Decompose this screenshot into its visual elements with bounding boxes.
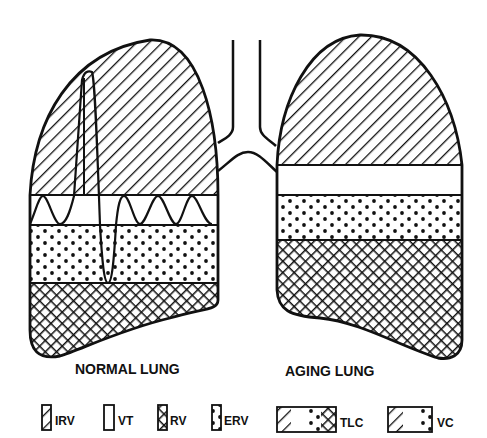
trachea: [218, 40, 277, 172]
svg-text:VT: VT: [118, 414, 134, 428]
normal-erv-band: [25, 225, 225, 283]
erv-swatch-icon: [212, 405, 221, 430]
vc-swatch-icon: [388, 407, 432, 432]
normal-rv-band: [25, 283, 225, 363]
svg-text:TLC: TLC: [340, 416, 364, 430]
legend-item-rv: RV: [158, 405, 186, 430]
normal-lung-label: NORMAL LUNG: [75, 361, 180, 377]
aging-irv-band: [270, 25, 470, 165]
aging-lung: AGING LUNG: [270, 25, 470, 379]
svg-text:VC: VC: [437, 416, 454, 430]
normal-irv-band: [25, 30, 225, 195]
tlc-swatch-icon: [277, 407, 336, 432]
legend-item-irv: IRV: [42, 405, 75, 430]
normal-lung: NORMAL LUNG: [25, 30, 225, 377]
legend: IRV VT RV ERV TLC: [42, 405, 454, 432]
rv-swatch-icon: [158, 405, 167, 430]
legend-item-vc: VC: [388, 407, 454, 432]
aging-vt-band: [270, 165, 470, 195]
svg-text:RV: RV: [170, 414, 186, 428]
svg-text:ERV: ERV: [224, 414, 248, 428]
aging-lung-label: AGING LUNG: [285, 363, 375, 379]
legend-item-tlc: TLC: [277, 407, 364, 432]
aging-rv-band: [270, 240, 470, 365]
vt-swatch-icon: [104, 405, 114, 430]
irv-swatch-icon: [42, 405, 51, 430]
aging-erv-band: [270, 195, 470, 240]
legend-item-vt: VT: [104, 405, 134, 430]
lung-volume-diagram: NORMAL LUNG AGING LUNG IRV VT: [0, 0, 487, 438]
legend-item-erv: ERV: [212, 405, 248, 430]
svg-text:IRV: IRV: [55, 414, 75, 428]
